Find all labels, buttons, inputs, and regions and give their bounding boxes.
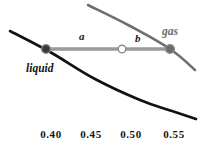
segment-b-label: b [135, 33, 141, 44]
gas-line-group [88, 5, 195, 70]
tick-label-0-50: 0.50 [110, 128, 152, 140]
gas-phase-label: gas [162, 26, 178, 38]
phase-diagram-figure: a b gas liquid 0.400.450.500.55 [0, 0, 204, 149]
plot-canvas [0, 0, 204, 149]
overall-composition-marker [118, 45, 126, 53]
liquid-node-marker [42, 45, 51, 54]
liquid-curve-group [10, 31, 196, 119]
tick-label-0-55: 0.55 [153, 128, 195, 140]
gas-node-marker [166, 45, 175, 54]
gas-line [88, 5, 195, 70]
tick-label-0-40: 0.40 [30, 128, 72, 140]
segment-a-label: a [79, 31, 85, 42]
liquid-curve [10, 31, 196, 119]
liquid-phase-label: liquid [26, 63, 53, 75]
tick-label-0-45: 0.45 [70, 128, 112, 140]
